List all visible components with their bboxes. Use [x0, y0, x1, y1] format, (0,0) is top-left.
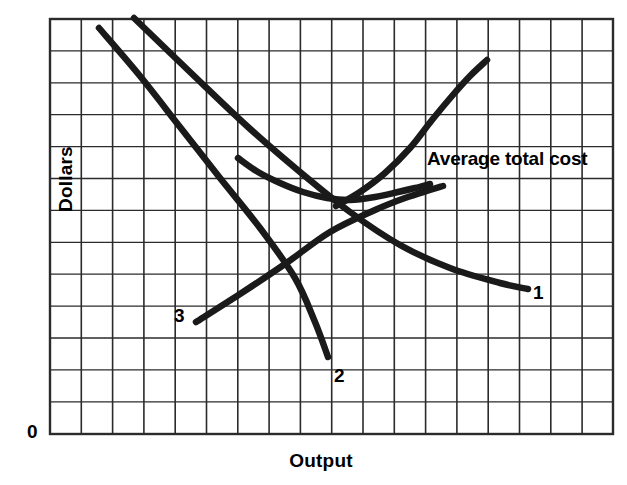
curve-marginal-cost [336, 60, 487, 206]
grid-lines [50, 19, 613, 434]
average-total-cost-annotation: Average total cost [427, 148, 587, 170]
origin-label: 0 [27, 421, 38, 443]
curve-label-2: 2 [334, 365, 345, 387]
cost-curves-figure: Dollars Output 0 1 2 3 Average total cos… [0, 0, 627, 485]
chart-canvas [0, 0, 627, 485]
curve-label-1: 1 [533, 282, 544, 304]
curve-curve-3 [196, 186, 443, 322]
x-axis-label: Output [256, 450, 386, 472]
curve-label-3: 3 [174, 305, 185, 327]
y-axis-label: Dollars [55, 119, 77, 239]
